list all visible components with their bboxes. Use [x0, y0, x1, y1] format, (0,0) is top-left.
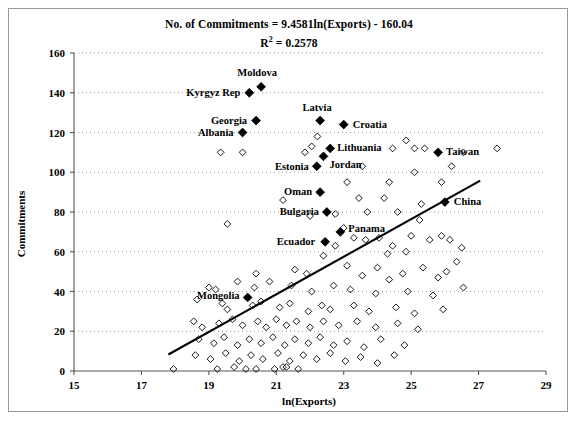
scatter-point: [374, 360, 381, 367]
scatter-point: [418, 201, 425, 208]
x-tick-label-15: 15: [69, 379, 81, 391]
chart-frame: No. of Commitments = 9.4581ln(Exports) -…: [8, 8, 568, 412]
scatter-point-kyrgyz-rep: [245, 88, 254, 97]
scatter-point: [286, 358, 293, 365]
scatter-point: [421, 145, 428, 152]
scatter-point: [307, 324, 314, 331]
scatter-point: [217, 149, 224, 156]
scatter-point: [453, 258, 460, 265]
scatter-point: [426, 236, 433, 243]
scatter-point-bulgaria: [322, 208, 331, 217]
scatter-point-estonia: [312, 162, 321, 171]
scatter-point: [344, 262, 351, 269]
scatter-point: [408, 232, 415, 239]
scatter-point: [447, 236, 454, 243]
scatter-point-albania: [238, 128, 247, 137]
x-tick-label-25: 25: [406, 379, 418, 391]
y-tick-label-0: 0: [60, 365, 66, 377]
scatter-point: [320, 318, 327, 325]
scatter-point-taiwan: [434, 148, 443, 157]
scatter-point: [384, 250, 391, 257]
scatter-point-panama: [336, 227, 345, 236]
scatter-point: [251, 284, 258, 291]
scatter-point: [354, 318, 361, 325]
scatter-point: [259, 356, 266, 363]
scatter-point: [393, 304, 400, 311]
point-label-lithuania: Lithuania: [337, 142, 382, 153]
scatter-point-georgia: [252, 116, 261, 125]
scatter-point: [350, 234, 357, 241]
scatter-point-oman: [316, 188, 325, 197]
scatter-point: [224, 221, 231, 228]
point-label-moldova: Moldova: [237, 67, 277, 78]
scatter-point: [280, 197, 287, 204]
point-label-mongolia: Mongolia: [197, 290, 240, 301]
scatter-point: [438, 232, 445, 239]
y-tick-label-60: 60: [54, 246, 66, 258]
scatter-point: [458, 244, 465, 251]
scatter-point: [403, 137, 410, 144]
scatter-point: [308, 143, 315, 150]
scatter-point: [248, 352, 255, 359]
scatter-point: [236, 358, 243, 365]
x-axis-title: ln(Exports): [282, 395, 336, 408]
scatter-point: [440, 306, 447, 313]
scatter-point: [330, 342, 337, 349]
scatter-point: [372, 324, 379, 331]
scatter-point: [448, 163, 455, 170]
point-label-jordan: Jordan: [329, 159, 361, 170]
scatter-point: [332, 211, 339, 218]
scatter-points-labeled: [238, 82, 449, 301]
scatter-point-mongolia: [243, 293, 252, 302]
scatter-point: [386, 276, 393, 283]
scatter-point: [293, 318, 300, 325]
scatter-point: [263, 324, 270, 331]
scatter-point-croatia: [339, 120, 348, 129]
x-tick-label-23: 23: [338, 379, 350, 391]
scatter-point-jordan: [319, 152, 328, 161]
regression-trendline: [168, 181, 480, 355]
scatter-plot: 020406080100120140160 1517192123252729 M…: [9, 9, 569, 413]
scatter-point: [222, 350, 229, 357]
point-label-oman: Oman: [284, 186, 312, 197]
scatter-point: [460, 284, 467, 291]
point-label-china: China: [454, 196, 482, 207]
scatter-point: [273, 316, 280, 323]
scatter-point: [286, 300, 293, 307]
scatter-point-ecuador: [321, 237, 330, 246]
scatter-point: [389, 242, 396, 249]
point-label-panama: Panama: [348, 223, 386, 234]
scatter-point: [350, 302, 357, 309]
scatter-point: [234, 278, 241, 285]
scatter-point: [381, 195, 388, 202]
y-tick-label-20: 20: [54, 325, 66, 337]
data-point-labels: MoldovaKyrgyz RepGeorgiaLatviaCroatiaAlb…: [186, 67, 482, 302]
trendline: [168, 181, 480, 355]
scatter-point: [420, 264, 427, 271]
scatter-point: [318, 302, 325, 309]
scatter-point: [234, 342, 241, 349]
scatter-point: [239, 322, 246, 329]
scatter-point: [355, 195, 362, 202]
y-tick-label-120: 120: [49, 127, 66, 139]
scatter-point: [275, 350, 282, 357]
scatter-point: [416, 217, 423, 224]
x-tick-label-21: 21: [271, 379, 282, 391]
scatter-point: [317, 334, 324, 341]
scatter-point: [394, 209, 401, 216]
scatter-point: [342, 358, 349, 365]
scatter-point: [291, 336, 298, 343]
point-label-bulgaria: Bulgaria: [280, 206, 320, 217]
y-tick-label-100: 100: [49, 166, 66, 178]
scatter-point: [199, 324, 206, 331]
scatter-point: [207, 356, 214, 363]
scatter-point: [239, 149, 246, 156]
scatter-point: [246, 336, 253, 343]
scatter-point: [276, 304, 283, 311]
scatter-point: [399, 270, 406, 277]
scatter-point: [327, 350, 334, 357]
scatter-point: [266, 278, 273, 285]
scatter-point: [291, 266, 298, 273]
scatter-point: [327, 306, 334, 313]
scatter-point: [231, 364, 238, 371]
